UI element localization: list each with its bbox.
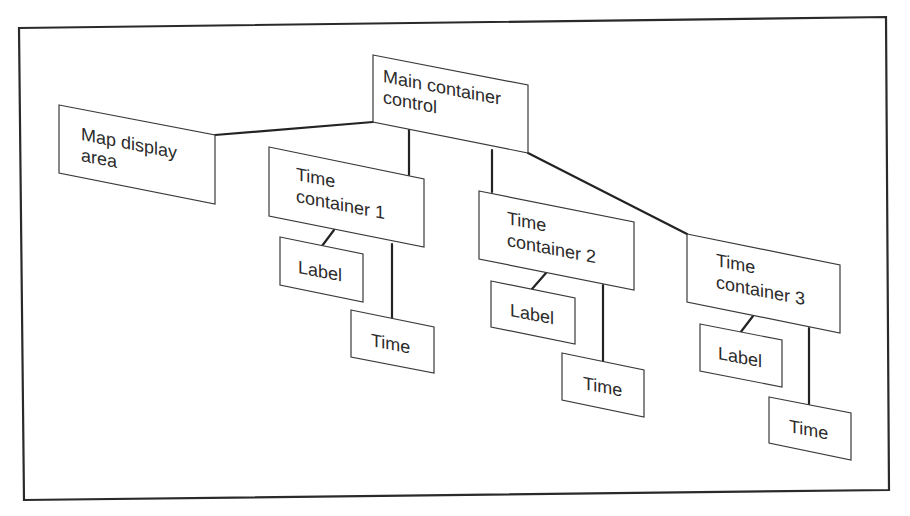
diagram-canvas: Main container control Map display area … (0, 0, 910, 516)
